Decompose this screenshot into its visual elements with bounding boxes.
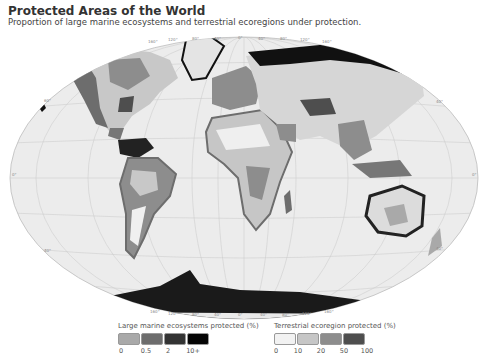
legend-marine-tick: 0 xyxy=(119,347,123,355)
svg-text:80°: 80° xyxy=(280,36,287,41)
legend-marine-swatch-2 xyxy=(164,333,186,345)
legend-terrestrial-swatch-0 xyxy=(274,333,296,345)
legend-terrestrial-swatch-2 xyxy=(320,333,342,345)
svg-text:80°: 80° xyxy=(192,36,199,41)
svg-text:80°: 80° xyxy=(282,312,289,317)
svg-text:40°: 40° xyxy=(214,36,221,41)
svg-text:0°: 0° xyxy=(472,172,477,177)
svg-text:160°: 160° xyxy=(324,309,334,314)
legend-marine-swatch-1 xyxy=(141,333,163,345)
legend-terrestrial-tick: 10 xyxy=(294,347,302,355)
legend-marine-swatch-3 xyxy=(187,333,209,345)
svg-text:40°: 40° xyxy=(258,36,265,41)
svg-text:160°: 160° xyxy=(150,309,160,314)
svg-text:120°: 120° xyxy=(300,37,310,42)
legend-marine-tick: 10+ xyxy=(186,347,200,355)
world-map: 160° 120° 80° 40° 0° 40° 80° 120° 160° 1… xyxy=(0,0,483,357)
legend-marine-tick: 0.5 xyxy=(141,347,151,355)
legend-terrestrial-tick: 50 xyxy=(340,347,348,355)
legend-terrestrial-swatch-3 xyxy=(343,333,365,345)
legend-marine-tick: 2 xyxy=(166,347,170,355)
legend-terrestrial-swatch-1 xyxy=(297,333,319,345)
svg-text:160°: 160° xyxy=(322,39,332,44)
svg-text:160°: 160° xyxy=(148,39,158,44)
legend-terrestrial-title: Terrestrial ecoregion protected (%) xyxy=(274,322,396,330)
svg-text:40°: 40° xyxy=(44,248,51,253)
legend-marine: Large marine ecosystems protected (%) 0 … xyxy=(118,322,259,356)
svg-text:60°: 60° xyxy=(44,98,51,103)
svg-text:0°: 0° xyxy=(238,312,243,317)
svg-text:40°: 40° xyxy=(260,312,267,317)
svg-text:0°: 0° xyxy=(12,172,17,177)
legend-terrestrial-tick: 20 xyxy=(317,347,325,355)
svg-text:80°: 80° xyxy=(192,312,199,317)
legend-terrestrial-tick: 100 xyxy=(361,347,373,355)
legend-marine-swatch-0 xyxy=(118,333,140,345)
svg-text:40°: 40° xyxy=(214,312,221,317)
svg-text:120°: 120° xyxy=(302,311,312,316)
svg-text:0°: 0° xyxy=(238,35,243,40)
svg-text:120°: 120° xyxy=(168,311,178,316)
svg-text:40°: 40° xyxy=(436,246,443,251)
legend-marine-title: Large marine ecosystems protected (%) xyxy=(118,322,259,330)
svg-text:120°: 120° xyxy=(168,37,178,42)
legend-terrestrial: Terrestrial ecoregion protected (%) 0 10… xyxy=(274,322,396,356)
legend-terrestrial-tick: 0 xyxy=(274,347,278,355)
svg-text:40°: 40° xyxy=(436,99,443,104)
